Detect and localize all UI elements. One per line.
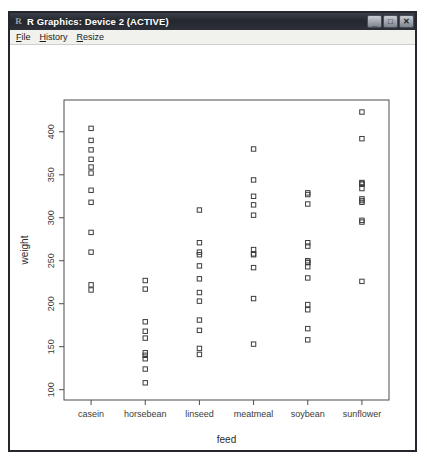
menubar: File History Resize	[10, 30, 415, 45]
data-point	[89, 171, 93, 175]
x-axis: caseinhorsebeanlinseedmeatmealsoybeansun…	[78, 400, 381, 419]
x-axis-title: feed	[217, 434, 236, 445]
x-tick-label-casein: casein	[78, 409, 104, 419]
y-tick-label: 400	[46, 124, 56, 139]
y-tick-label: 300	[46, 210, 56, 225]
window-titlebar[interactable]: R R Graphics: Device 2 (ACTIVE) _ □ ✕	[10, 13, 415, 30]
data-point	[197, 277, 201, 281]
data-point	[306, 302, 310, 306]
y-tick-label: 150	[46, 339, 56, 354]
x-tick-label-soybean: soybean	[291, 409, 325, 419]
data-point	[143, 367, 147, 371]
data-point	[251, 247, 255, 251]
data-point	[143, 336, 147, 340]
data-point	[89, 288, 93, 292]
menu-item-file[interactable]: File	[14, 30, 38, 44]
minimize-icon: _	[368, 16, 381, 30]
data-point	[360, 279, 364, 283]
data-point	[197, 299, 201, 303]
close-icon: ✕	[400, 16, 413, 27]
data-point	[306, 276, 310, 280]
data-point	[251, 265, 255, 269]
plot-frame	[64, 100, 389, 400]
data-point	[306, 308, 310, 312]
data-point	[197, 290, 201, 294]
data-point	[306, 265, 310, 269]
menu-item-resize[interactable]: Resize	[75, 30, 112, 44]
graphics-canvas: 100150200250300350400 caseinhorsebeanlin…	[10, 45, 415, 450]
data-point	[251, 296, 255, 300]
data-points-layer	[89, 110, 364, 385]
y-tick-label: 100	[46, 382, 56, 397]
data-point	[251, 178, 255, 182]
data-point	[306, 338, 310, 342]
data-point	[197, 208, 201, 212]
r-app-icon: R	[13, 16, 24, 27]
window-title: R Graphics: Device 2 (ACTIVE)	[27, 13, 366, 30]
menu-item-history-label: istory	[46, 32, 68, 42]
menu-item-file-label: ile	[22, 32, 31, 42]
r-graphics-window: R R Graphics: Device 2 (ACTIVE) _ □ ✕ Fi…	[8, 11, 417, 452]
data-point	[143, 381, 147, 385]
menu-item-history[interactable]: History	[38, 30, 75, 44]
data-point	[89, 148, 93, 152]
y-tick-label: 200	[46, 296, 56, 311]
close-button[interactable]: ✕	[399, 15, 414, 28]
x-tick-label-meatmeal: meatmeal	[234, 409, 274, 419]
x-tick-label-linseed: linseed	[185, 409, 214, 419]
data-point	[306, 202, 310, 206]
data-point	[89, 157, 93, 161]
x-tick-label-horsebean: horsebean	[124, 409, 167, 419]
x-tick-label-sunflower: sunflower	[343, 409, 382, 419]
y-axis: 100150200250300350400	[46, 124, 64, 397]
data-point	[89, 250, 93, 254]
data-point	[89, 230, 93, 234]
minimize-button[interactable]: _	[367, 15, 382, 28]
data-point	[89, 283, 93, 287]
data-point	[89, 200, 93, 204]
stripchart-plot: 100150200250300350400 caseinhorsebeanlin…	[10, 45, 415, 450]
data-point	[143, 320, 147, 324]
data-point	[197, 346, 201, 350]
data-point	[89, 165, 93, 169]
y-tick-label: 350	[46, 167, 56, 182]
data-point	[89, 188, 93, 192]
y-axis-title: weight	[19, 235, 30, 265]
data-point	[197, 328, 201, 332]
data-point	[143, 329, 147, 333]
data-point	[360, 186, 364, 190]
data-point	[89, 138, 93, 142]
menu-item-resize-label: esize	[83, 32, 104, 42]
data-point	[251, 147, 255, 151]
maximize-button[interactable]: □	[383, 15, 398, 28]
data-point	[197, 264, 201, 268]
data-point	[360, 136, 364, 140]
data-point	[251, 342, 255, 346]
data-point	[197, 352, 201, 356]
data-point	[251, 194, 255, 198]
plot-border	[64, 100, 389, 400]
data-point	[360, 110, 364, 114]
data-point	[143, 287, 147, 291]
data-point	[251, 213, 255, 217]
data-point	[197, 318, 201, 322]
data-point	[197, 240, 201, 244]
data-point	[251, 203, 255, 207]
maximize-icon: □	[384, 16, 397, 27]
y-tick-label: 250	[46, 253, 56, 268]
data-point	[143, 278, 147, 282]
data-point	[89, 126, 93, 130]
data-point	[306, 326, 310, 330]
